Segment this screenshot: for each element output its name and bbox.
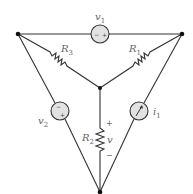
resistor-r1: [100, 34, 182, 88]
label-v-minus: −: [106, 151, 113, 160]
label-r1: R1: [128, 43, 141, 57]
svg-text:+: +: [102, 31, 107, 38]
resistor-r3: [18, 34, 100, 88]
resistor-r2: [96, 88, 104, 192]
svg-text:−: −: [56, 103, 61, 110]
wire-left-lower: [65, 119, 100, 192]
voltage-source-v2: − +: [51, 102, 69, 120]
label-r2: R2: [81, 132, 94, 146]
voltage-source-v1: − +: [91, 25, 109, 43]
label-v: v: [107, 134, 113, 145]
label-v1: v1: [95, 11, 105, 25]
label-v2: v2: [38, 115, 48, 129]
label-i1: i1: [153, 106, 161, 120]
node-bottom: [98, 190, 103, 194]
svg-text:−: −: [94, 31, 99, 38]
current-source-i1: [130, 102, 148, 120]
label-r3: R3: [60, 43, 73, 57]
node-top-right: [180, 32, 185, 37]
label-v-plus: +: [106, 119, 113, 128]
node-top-left: [16, 32, 21, 37]
circuit-diagram: − + v1 R3 R1 − + v2 i1 R2 + v −: [0, 0, 193, 194]
node-center: [98, 86, 102, 90]
svg-text:+: +: [60, 111, 65, 118]
